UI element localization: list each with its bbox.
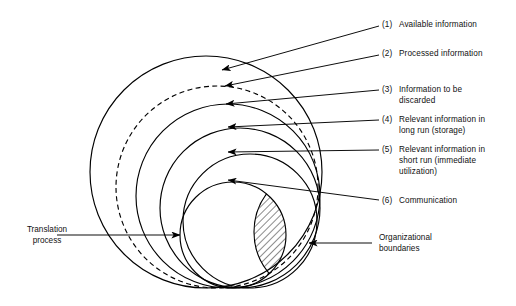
circle-group xyxy=(90,56,322,288)
annotation-organizational-boundaries-text: Organizational boundaries xyxy=(379,233,432,253)
legend-item-3: (3) Information to be discarded xyxy=(382,84,462,106)
circle-processed-information xyxy=(116,86,318,288)
legend-label-1: Available information xyxy=(399,19,477,30)
legend-number-5: (5) xyxy=(382,144,399,155)
legend-number-2: (2) xyxy=(382,48,399,59)
legend-label-6: Communication xyxy=(399,195,457,206)
leader-line-1 xyxy=(222,26,379,70)
legend-number-1: (1) xyxy=(382,19,399,30)
legend-number-4: (4) xyxy=(382,114,399,125)
leader-line-6 xyxy=(228,180,379,200)
legend-item-5: (5) Relevant information in short run (i… xyxy=(382,144,485,177)
legend-item-1: (1) Available information xyxy=(382,19,477,30)
legend-label-4: Relevant information in long run (storag… xyxy=(399,114,485,136)
legend-item-4: (4) Relevant information in long run (st… xyxy=(382,114,485,136)
legend-label-3: Information to be discarded xyxy=(399,84,462,106)
leader-line-2 xyxy=(225,55,379,86)
annotation-translation-process: Translation process xyxy=(12,224,82,246)
annotation-translation-process-text: Translation process xyxy=(27,225,67,245)
annotation-organizational-boundaries: Organizational boundaries xyxy=(379,232,489,254)
legend-item-6: (6) Communication xyxy=(382,195,457,206)
leader-line-4 xyxy=(228,120,379,127)
leader-lines-group xyxy=(57,26,379,243)
legend-item-2: (2) Processed information xyxy=(382,48,483,59)
leader-line-5 xyxy=(228,150,379,152)
legend-number-6: (6) xyxy=(382,195,399,206)
circle-relevant-short-run xyxy=(183,154,317,288)
circle-available-information xyxy=(90,56,322,288)
legend-label-5: Relevant information in short run (immed… xyxy=(399,144,485,177)
circle-information-to-be-discarded xyxy=(136,104,320,288)
leader-line-3 xyxy=(226,90,379,104)
legend-number-3: (3) xyxy=(382,84,399,95)
legend-label-2: Processed information xyxy=(399,48,483,59)
